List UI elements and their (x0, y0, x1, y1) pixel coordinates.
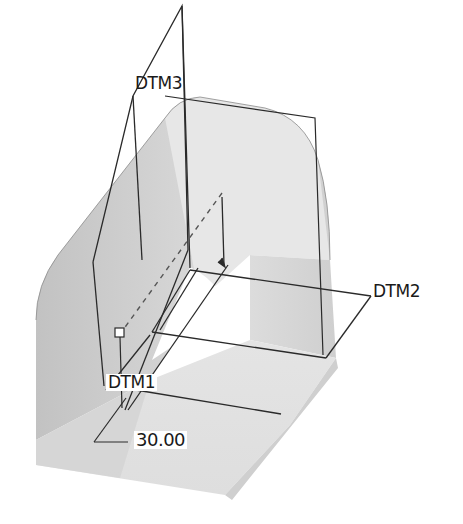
datum-label-dtm1[interactable]: DTM1 (106, 374, 157, 391)
model-viewport[interactable]: DTM3 DTM2 DTM1 30.00 (0, 0, 463, 524)
datum-label-dtm2[interactable]: DTM2 (373, 283, 420, 300)
model-graphics (0, 0, 463, 524)
drag-handle[interactable] (115, 328, 124, 337)
datum-label-dtm3[interactable]: DTM3 (135, 75, 182, 92)
dimension-value[interactable]: 30.00 (134, 431, 187, 449)
